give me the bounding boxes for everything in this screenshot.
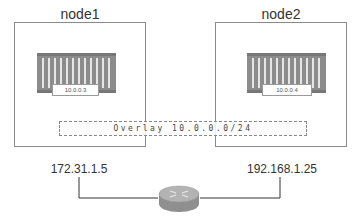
node2-host-ip: 192.168.1.25 [242, 162, 322, 176]
node2-router-link [200, 177, 280, 198]
node1-title: node1 [55, 6, 105, 22]
overlay-network: Overlay 10.0.0.0/24 [59, 121, 307, 136]
node1-container-ip: 10.0.0.3 [52, 84, 99, 96]
node2-title: node2 [256, 6, 306, 22]
router-icon [158, 185, 200, 213]
node1-router-link [79, 177, 158, 198]
node2-container-ip: 10.0.0.4 [262, 84, 312, 96]
node1-host-ip: 172.31.1.5 [44, 162, 114, 176]
